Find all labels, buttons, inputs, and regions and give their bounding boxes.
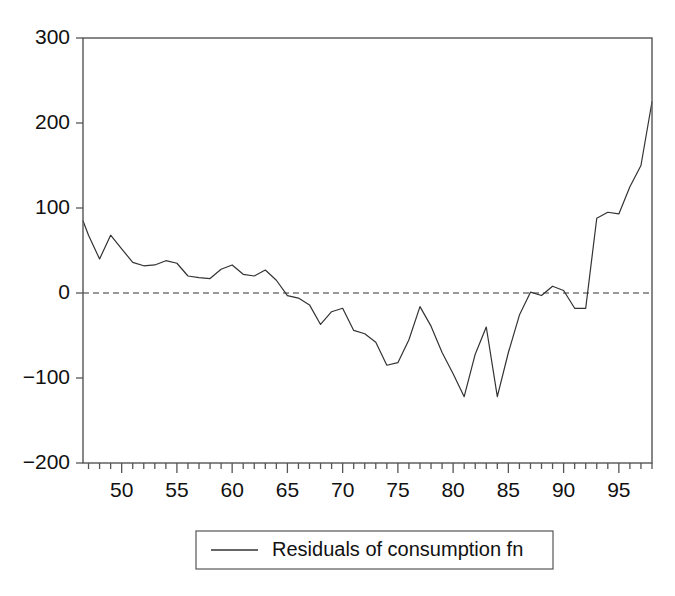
y-axis-tick-labels: −200−1000100200300 [23,25,70,473]
x-tick-label: 85 [497,478,520,501]
x-axis-tick-labels: 50556065707580859095 [110,478,631,501]
chart-legend: Residuals of consumption fn [196,531,553,569]
y-tick-label: 300 [35,25,70,48]
legend-entry-label: Residuals of consumption fn [272,538,523,560]
x-tick-label: 50 [110,478,133,501]
x-tick-label: 90 [552,478,575,501]
x-tick-label: 65 [276,478,299,501]
x-tick-label: 80 [441,478,464,501]
residuals-line-chart: −200−1000100200300 50556065707580859095 … [0,0,675,596]
x-tick-label: 95 [607,478,630,501]
y-tick-label: −200 [23,450,70,473]
plot-background [83,38,652,463]
chart-figure: −200−1000100200300 50556065707580859095 … [0,0,675,596]
y-tick-label: −100 [23,365,70,388]
x-tick-label: 55 [165,478,188,501]
y-axis-ticks [76,38,83,463]
y-tick-label: 200 [35,110,70,133]
x-axis-ticks [89,463,652,473]
x-tick-label: 60 [220,478,243,501]
y-tick-label: 0 [58,280,70,303]
x-tick-label: 75 [386,478,409,501]
x-tick-label: 70 [331,478,354,501]
y-tick-label: 100 [35,195,70,218]
